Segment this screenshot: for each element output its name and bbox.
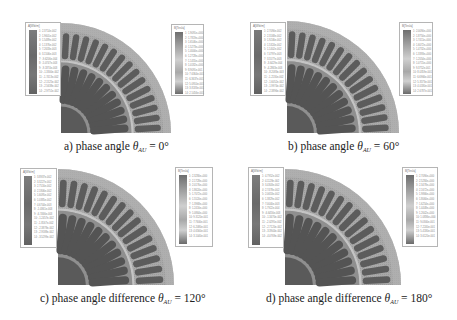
caption-c: c) phase angle difference θAU = 120° (40, 292, 206, 305)
legend-title: A[Wb/m] (251, 169, 263, 173)
legend-value: 1: 2.0090e+000 (413, 30, 432, 35)
legend-flux-density-c: B[Tesla] 1: 2.3280e+0002: 2.1728e+0003: … (175, 167, 213, 247)
legend-flux-density-a: B[Tesla] 1: 1.9091e+0002: 1.7819e+0003: … (171, 24, 204, 96)
legend-value: 14: -4.0769e-002 (262, 235, 282, 240)
legend-colorbar (179, 175, 187, 244)
stator-slot (365, 128, 385, 129)
stator-slot (289, 183, 290, 204)
legend-value: 14: -2.3896e-002 (264, 90, 284, 95)
legend-value: 14: 3.1040e-001 (189, 235, 208, 240)
legend-colorbar (403, 30, 411, 94)
stator-slot (73, 37, 76, 57)
stator-slot (138, 269, 159, 272)
legend-colorbar (29, 30, 37, 94)
legend-colorbar (24, 176, 32, 245)
legend-title: A[Wb/m] (28, 24, 40, 28)
legend-flux-linkage-a: A[Wb/m] 1: 2.3714e-0022: 1.9601e-0023: 1… (25, 22, 61, 96)
legend-value: 11: -2.0295e-002 (262, 221, 282, 226)
stator-slot (138, 128, 158, 129)
panel-a: A[Wb/m] 1: 2.3714e-0022: 1.9601e-0023: 1… (0, 0, 228, 160)
legend-value: 14: 2.6787e-001 (413, 90, 432, 95)
stator-slot (298, 184, 301, 205)
stator-slot (137, 118, 157, 121)
legend-value: 1: 4.7952e-002 (262, 175, 282, 180)
rotor-bar (93, 280, 125, 282)
legend-colorbar (254, 30, 262, 94)
caption-b: b) phase angle θAU = 60° (288, 140, 399, 153)
panel-d: A[Wb/m] 1: 4.7952e-0022: 4.1128e-0023: 3… (228, 160, 457, 320)
legend-value: 14: -3.5299e-002 (34, 236, 54, 241)
stator-slot (364, 118, 384, 121)
legend-value: 6: 1.3393e+000 (413, 53, 432, 58)
panel-b: A[Wb/m] 1: 2.7090e-0022: 2.3168e-0023: 1… (228, 0, 457, 160)
legend-value: 14: 3.6120e-001 (416, 235, 436, 240)
legend-value: 6: 1.2728e+000 (185, 55, 204, 60)
rotor-bar (60, 218, 62, 250)
legend-flux-density-d: B[Tesla] 1: 2.7090e+0002: 2.5284e+0003: … (402, 167, 438, 247)
legend-value: 11: 6.6966e-001 (413, 76, 432, 81)
caption-d: d) phase angle difference θAU = 180° (266, 292, 432, 305)
stator-slot (62, 183, 63, 204)
stator-slot (365, 269, 386, 272)
legend-value: 6: 7.4797e-003 (264, 53, 284, 58)
rotor-bar (321, 128, 352, 130)
legend-value: 6: 1.3829e-002 (262, 198, 282, 203)
legend-colorbar (252, 175, 260, 245)
stator-slot (366, 280, 387, 281)
stator-slot (139, 280, 160, 281)
panel-c: A[Wb/m] 1: 3.8937e-0022: 3.3227e-0023: 2… (0, 160, 228, 320)
legend-value: 11: -1.7413e-002 (39, 76, 59, 81)
legend-value: 6: 3.1506e-003 (39, 53, 59, 58)
legend-value: 11: 9.0300e-001 (416, 221, 436, 226)
legend-value: 14: -2.9751e-002 (39, 90, 59, 95)
legend-value: 11: 6.3637e-001 (185, 78, 204, 83)
legend-value: 6: 1.0385e-002 (34, 199, 54, 204)
legend-value: 11: -1.2130e-002 (264, 76, 284, 81)
rotor-bar (320, 280, 352, 282)
legend-value: 1: 2.7090e+000 (416, 175, 436, 180)
legend-value: 1: 2.3714e-002 (39, 30, 59, 35)
legend-flux-density-b: B[Tesla] 1: 2.0090e+0002: 1.8750e+0003: … (399, 22, 433, 96)
rotor-bar (63, 69, 65, 100)
stator-slot (291, 35, 292, 55)
stator-slot (299, 36, 302, 56)
legend-value: 1: 3.8937e-002 (34, 176, 54, 181)
stator-slot (65, 36, 66, 56)
legend-title: B[Tesla] (174, 26, 185, 30)
rotor-bar (94, 128, 125, 130)
legend-flux-linkage-b: A[Wb/m] 1: 2.7090e-0022: 2.3168e-0023: 1… (250, 22, 286, 96)
legend-value: 6: 1.5520e+000 (189, 198, 208, 203)
legend-title: A[Wb/m] (23, 170, 35, 174)
legend-title: B[Tesla] (405, 169, 416, 173)
legend-flux-linkage-c: A[Wb/m] 1: 3.8937e-0022: 3.3227e-0023: 2… (20, 168, 57, 248)
legend-colorbar (406, 175, 414, 244)
caption-a: a) phase angle θAU = 0° (64, 140, 169, 153)
stator-slot (71, 184, 74, 205)
legend-title: B[Tesla] (402, 24, 413, 28)
legend-value: 11: 7.7600e-001 (189, 221, 208, 226)
legend-flux-linkage-d: A[Wb/m] 1: 4.7952e-0022: 4.1128e-0023: 3… (248, 167, 284, 248)
legend-title: B[Tesla] (178, 169, 189, 173)
rotor-bar (289, 68, 291, 99)
legend-value: 6: 1.8060e+000 (416, 198, 436, 203)
legend-value: 1: 2.3280e+000 (189, 175, 208, 180)
legend-value: 14: 2.5456e-001 (185, 92, 204, 97)
legend-value: 11: -1.8167e-002 (34, 222, 54, 227)
legend-colorbar (175, 32, 183, 94)
rotor-bar (287, 218, 289, 250)
legend-value: 1: 1.9091e+000 (185, 32, 204, 37)
legend-value: 1: 2.7090e-002 (264, 30, 284, 35)
legend-title: A[Wb/m] (253, 24, 265, 28)
